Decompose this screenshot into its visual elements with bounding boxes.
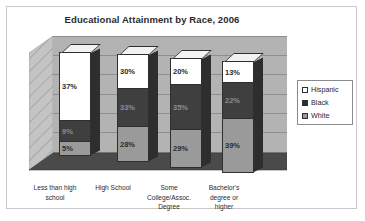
legend-swatch-icon xyxy=(302,113,308,119)
category-label-line: degree or xyxy=(193,193,255,203)
bar-side-face xyxy=(149,51,158,161)
segment-hispanic[interactable]: 30% xyxy=(118,55,148,89)
chart-legend: Hispanic Black White xyxy=(297,80,353,125)
segment-label: 9% xyxy=(60,127,73,136)
segment-white[interactable]: 28% xyxy=(118,127,148,161)
category-label-bachelors-degree: Bachelor's degree or higher xyxy=(193,183,255,212)
segment-label: 29% xyxy=(171,144,188,153)
segment-hispanic[interactable]: 20% xyxy=(171,59,201,85)
bar-group[interactable]: 30% 33% 28% xyxy=(117,54,147,162)
bar-group[interactable]: 13% 22% 39% xyxy=(222,61,252,173)
stacked-bar: 20% 35% 29% xyxy=(170,58,202,168)
category-label-some-college: Some College/Assoc. Degree xyxy=(138,183,200,212)
segment-white[interactable]: 39% xyxy=(223,119,253,172)
chart-container: Educational Attainment by Race, 2006 xyxy=(6,6,357,209)
segment-label: 37% xyxy=(60,82,77,91)
segment-black[interactable]: 35% xyxy=(171,85,201,130)
segment-black[interactable]: 22% xyxy=(223,83,253,119)
category-label-line: Bachelor's xyxy=(193,183,255,193)
segment-label: 39% xyxy=(223,141,240,150)
segment-label: 13% xyxy=(223,68,240,77)
legend-swatch-icon xyxy=(302,100,308,106)
segment-label: 22% xyxy=(223,96,240,105)
segment-label: 20% xyxy=(171,67,188,76)
category-label-line: school xyxy=(24,193,86,203)
gridline xyxy=(53,36,287,37)
bar-group[interactable]: 20% 35% 29% xyxy=(170,58,200,168)
category-label-high-school: High School xyxy=(82,183,144,193)
bar-side-face xyxy=(254,58,263,172)
segment-white[interactable]: 5% xyxy=(60,142,90,155)
bar-side-face xyxy=(91,49,100,155)
legend-label: Hispanic xyxy=(311,85,339,94)
legend-item-hispanic[interactable]: Hispanic xyxy=(302,85,349,94)
stacked-bar: 30% 33% 28% xyxy=(117,54,149,162)
stacked-bar: 13% 22% 39% xyxy=(222,61,254,173)
legend-item-black[interactable]: Black xyxy=(302,98,349,107)
legend-item-white[interactable]: White xyxy=(302,111,349,120)
category-label-line: College/Assoc. xyxy=(138,193,200,203)
segment-hispanic[interactable]: 13% xyxy=(223,62,253,83)
segment-black[interactable]: 9% xyxy=(60,121,90,142)
segment-black[interactable]: 33% xyxy=(118,89,148,127)
legend-label: Black xyxy=(311,98,329,107)
category-label-line: High School xyxy=(82,183,144,193)
segment-label: 33% xyxy=(118,103,135,112)
category-label-line: Less than high xyxy=(24,183,86,193)
category-label-line: Some xyxy=(138,183,200,193)
category-label-less-than-high-school: Less than high school xyxy=(24,183,86,202)
plot-area: 37% 9% 5% 30% 33% xyxy=(29,33,287,179)
segment-white[interactable]: 29% xyxy=(171,130,201,167)
legend-label: White xyxy=(311,111,329,120)
segment-label: 28% xyxy=(118,140,135,149)
bar-side-face xyxy=(202,55,211,167)
segment-label: 30% xyxy=(118,67,135,76)
segment-label: 5% xyxy=(60,144,73,153)
segment-hispanic[interactable]: 37% xyxy=(60,53,90,121)
category-label-line: Degree xyxy=(138,202,200,212)
bar-group[interactable]: 37% 9% 5% xyxy=(59,52,89,156)
category-label-line: higher xyxy=(193,202,255,212)
legend-swatch-icon xyxy=(302,87,308,93)
segment-label: 35% xyxy=(171,103,188,112)
stacked-bar: 37% 9% 5% xyxy=(59,52,91,156)
chart-title: Educational Attainment by Race, 2006 xyxy=(7,14,297,25)
